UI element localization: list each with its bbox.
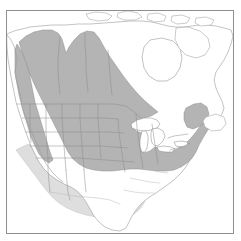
lake-ontario: [174, 141, 188, 147]
map-canvas: [0, 0, 241, 241]
lake-michigan: [140, 131, 148, 152]
hudson-bay: [142, 38, 182, 81]
range-map-figure: [0, 0, 241, 241]
